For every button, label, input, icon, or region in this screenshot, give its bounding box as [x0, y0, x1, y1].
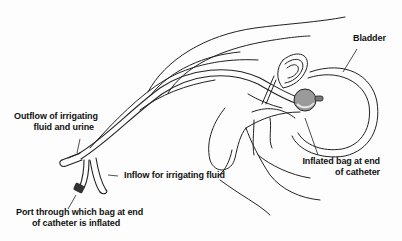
label-bladder: Bladder — [353, 33, 386, 44]
label-port-line2: of catheter is inflated — [16, 218, 136, 229]
label-outflow-line1: Outflow of irrigating — [14, 111, 94, 122]
label-outflow-line2: fluid and urine — [14, 122, 94, 133]
label-port-line1: Port through which bag at end — [16, 207, 136, 218]
port-valve-icon — [73, 182, 85, 193]
label-bag-line2: of catheter — [300, 167, 380, 178]
catheter-diagram: Bladder Outflow of irrigating fluid and … — [0, 0, 402, 241]
label-inflated-bag: Inflated bag at end of catheter — [300, 156, 380, 178]
label-bag-line1: Inflated bag at end — [300, 156, 380, 167]
label-port: Port through which bag at end of cathete… — [16, 207, 136, 229]
label-outflow: Outflow of irrigating fluid and urine — [14, 111, 94, 133]
label-inflow: Inflow for irrigating fluid — [124, 170, 225, 181]
